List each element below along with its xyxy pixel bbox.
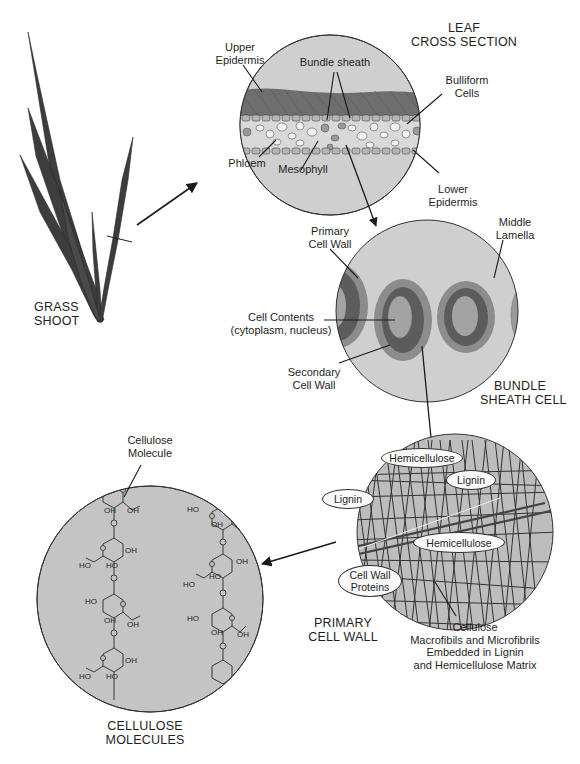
oval-lignin-right: Lignin bbox=[446, 470, 496, 490]
bundle-sheath-cell-title: BUNDLE SHEATH CELL bbox=[480, 379, 560, 407]
leaf-title-line2: CROSS SECTION bbox=[409, 35, 519, 49]
caption-line2: Macrofibils and Microfibrils bbox=[405, 634, 545, 647]
oh-label: OH bbox=[127, 506, 139, 515]
primary-wall-title-line1: PRIMARY bbox=[303, 616, 383, 630]
ho-label: HO bbox=[79, 672, 91, 681]
oh-label: OH bbox=[211, 628, 223, 637]
ho-label: HO bbox=[187, 505, 199, 514]
bundle-title-line2: SHEATH CELL bbox=[480, 393, 560, 407]
leaf-cross-section-title: LEAF CROSS SECTION bbox=[409, 21, 519, 49]
lower-epidermis-line2: Epidermis bbox=[423, 196, 483, 209]
label-cell-contents: Cell Contents (cytoplasm, nucleus) bbox=[226, 311, 336, 336]
label-phloem: Phloem bbox=[222, 157, 272, 170]
grass-shoot-title: GRASS SHOOT bbox=[34, 300, 79, 328]
oh-label: OH bbox=[237, 630, 249, 639]
oh-label: OH bbox=[125, 546, 137, 555]
middle-lamella-line1: Middle bbox=[490, 216, 540, 229]
secondary-wall-line2: Cell Wall bbox=[284, 379, 344, 392]
cellulose-molecules-lens bbox=[37, 484, 263, 712]
cellulose-hierarchy-diagram: GRASS SHOOT LEAF CROSS SECTION Upper Epi… bbox=[0, 0, 580, 764]
oh-label: OH bbox=[104, 506, 116, 515]
leaf-title-line1: LEAF bbox=[409, 21, 519, 35]
cell-contents-line1: Cell Contents bbox=[226, 311, 336, 324]
cellulose-molecules-title: CELLULOSE MOLECULES bbox=[90, 719, 200, 747]
bulliform-line1: Bulliform bbox=[437, 74, 497, 87]
middle-lamella-line2: Lamella bbox=[490, 229, 540, 242]
lower-epidermis-line1: Lower bbox=[423, 183, 483, 196]
ho-label: HO bbox=[187, 614, 199, 623]
bulliform-line2: Cells bbox=[437, 87, 497, 100]
arrow-wall-to-molecules bbox=[262, 542, 336, 564]
grass-shoot-title-line2: SHOOT bbox=[34, 314, 79, 328]
oval-hemicellulose-mid: Hemicellulose bbox=[413, 532, 505, 553]
caption-line3: Embedded in Lignin bbox=[405, 646, 545, 659]
cellulose-fibril-caption: Cellulose Macrofibils and Microfibrils E… bbox=[405, 621, 545, 671]
ho-label: HO bbox=[79, 561, 91, 570]
cellulose-molecule-line1: Cellulose bbox=[120, 434, 180, 447]
label-bundle-sheath: Bundle sheath bbox=[295, 56, 375, 69]
cut-mark bbox=[107, 236, 132, 242]
label-bulliform-cells: Bulliform Cells bbox=[437, 74, 497, 99]
cellulose-molecule-line2: Molecule bbox=[120, 447, 180, 460]
ho-label: HO bbox=[183, 580, 195, 589]
oval-hemicellulose-top: Hemicellulose bbox=[381, 448, 463, 468]
label-middle-lamella: Middle Lamella bbox=[490, 216, 540, 241]
grass-shoot-illustration bbox=[20, 32, 133, 322]
primary-wall-line1: Primary bbox=[300, 225, 360, 238]
ho-label: HO bbox=[106, 561, 118, 570]
primary-wall-line2: Cell Wall bbox=[300, 238, 360, 251]
oval-lignin-left: Lignin bbox=[322, 489, 374, 509]
upper-epidermis-line2: Epidermis bbox=[205, 54, 275, 67]
label-primary-cell-wall: Primary Cell Wall bbox=[300, 225, 360, 250]
primary-wall-title-line2: CELL WALL bbox=[303, 630, 383, 644]
cellulose-title-line1: CELLULOSE bbox=[90, 719, 200, 733]
label-cellulose-molecule: Cellulose Molecule bbox=[120, 434, 180, 459]
oh-label: OH bbox=[125, 656, 137, 665]
ho-label: HO bbox=[106, 672, 118, 681]
cell-wall-proteins-line1: Cell Wall bbox=[349, 569, 390, 581]
caption-line4: and Hemicellulose Matrix bbox=[405, 659, 545, 672]
ho-label: HO bbox=[85, 597, 97, 606]
arrow-shoot-to-leaf bbox=[137, 183, 197, 225]
label-secondary-cell-wall: Secondary Cell Wall bbox=[284, 366, 344, 391]
upper-epidermis-line1: Upper bbox=[205, 41, 275, 54]
cell-contents-line2: (cytoplasm, nucleus) bbox=[226, 324, 336, 337]
label-upper-epidermis: Upper Epidermis bbox=[205, 41, 275, 66]
ho-label: HO bbox=[209, 572, 221, 581]
label-mesophyll: Mesophyll bbox=[273, 163, 333, 176]
cellulose-title-line2: MOLECULES bbox=[90, 733, 200, 747]
oh-label: OH bbox=[104, 616, 116, 625]
oh-label: OH bbox=[127, 620, 139, 629]
oval-cell-wall-proteins: Cell Wall Proteins bbox=[338, 565, 402, 597]
secondary-wall-line1: Secondary bbox=[284, 366, 344, 379]
bundle-title-line1: BUNDLE bbox=[480, 379, 560, 393]
grass-shoot-title-line1: GRASS bbox=[34, 300, 79, 314]
caption-line1: Cellulose bbox=[405, 621, 545, 634]
oh-label: OH bbox=[236, 557, 248, 566]
cell-wall-proteins-line2: Proteins bbox=[351, 581, 390, 593]
label-lower-epidermis: Lower Epidermis bbox=[423, 183, 483, 208]
oh-label: OH bbox=[211, 520, 223, 529]
primary-cell-wall-title: PRIMARY CELL WALL bbox=[303, 616, 383, 644]
